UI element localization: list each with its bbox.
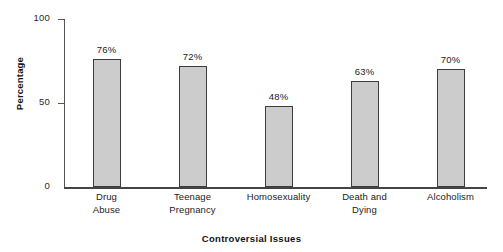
x-axis-label-alcoholism: Alcoholism (398, 191, 503, 204)
bar-group-homosexuality: 48% (236, 19, 321, 187)
bar-group-drug-abuse: 76% (64, 19, 149, 187)
y-axis-tick-label-100: 100 (10, 13, 50, 23)
x-axis-label-line2: Pregnancy (140, 204, 245, 217)
x-axis-title: Controversial Issues (0, 233, 503, 244)
bar-value-label: 48% (249, 92, 309, 102)
bar-group-death-and-dying: 63% (322, 19, 407, 187)
bar-value-label: 63% (335, 67, 395, 77)
x-axis-line (64, 187, 487, 189)
y-axis-title: Percentage (14, 44, 25, 124)
bar-value-label: 72% (163, 52, 223, 62)
x-axis-category-labels: Drug Abuse Teenage Pregnancy Homosexuali… (64, 191, 487, 233)
plot-area: 76% 72% 48% 63% 70% (64, 19, 487, 187)
bar-group-teenage-pregnancy: 72% (150, 19, 235, 187)
bar-value-label: 70% (421, 55, 481, 65)
x-axis-label-line1: Alcoholism (398, 191, 503, 204)
x-axis-label-line2: Dying (312, 204, 417, 217)
bar-group-alcoholism: 70% (408, 19, 493, 187)
bar-homosexuality (265, 106, 293, 187)
bar-drug-abuse (93, 59, 121, 187)
bar-teenage-pregnancy (179, 66, 207, 187)
bar-alcoholism (437, 69, 465, 187)
bar-death-and-dying (351, 81, 379, 187)
bar-chart: 100 50 0 Percentage 76% 72% 48% 63% 70% (0, 0, 503, 252)
y-axis-tick-label-0: 0 (10, 181, 50, 191)
bar-value-label: 76% (77, 45, 137, 55)
